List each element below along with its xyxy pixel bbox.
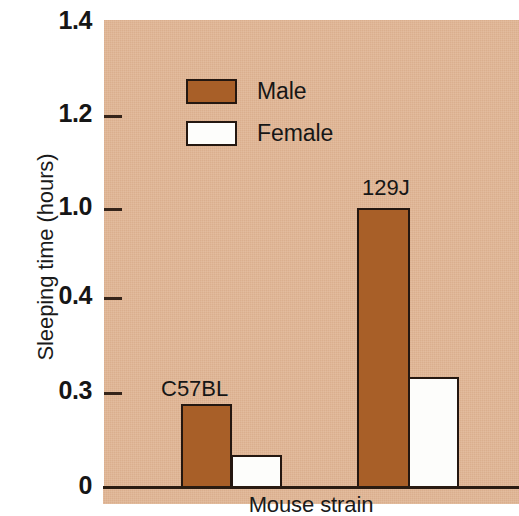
plot-area: Male Female C57BL 129J — [103, 20, 519, 504]
y-axis-title: Sleeping time (hours) — [33, 117, 59, 397]
legend-label-male: Male — [257, 78, 306, 105]
bar-c57bl-male — [181, 404, 232, 489]
y-tick-mark-1-2 — [103, 115, 122, 118]
x-axis-title: Mouse strain — [103, 492, 519, 516]
legend-swatch-female-icon — [186, 121, 237, 146]
bar-129j-male — [357, 208, 410, 489]
y-tick-label-0: 0 — [14, 473, 92, 498]
y-axis-line — [102, 20, 104, 489]
group-label-c57bl: C57BL — [161, 378, 228, 400]
legend-swatch-male-icon — [186, 79, 237, 104]
y-tick-mark-0-3 — [103, 392, 122, 395]
bar-c57bl-female — [231, 455, 282, 489]
y-tick-label-1-4: 1.4 — [14, 8, 92, 33]
y-tick-mark-0-4 — [103, 297, 122, 300]
x-axis-line — [103, 486, 519, 489]
legend-item-male: Male — [186, 78, 306, 105]
group-label-129j: 129J — [362, 177, 410, 199]
bar-129j-female — [408, 377, 459, 489]
sleeping-time-bar-chart: Male Female C57BL 129J 1.4 1.2 1.0 0.4 0… — [0, 0, 519, 516]
y-tick-mark-1-0 — [103, 208, 122, 211]
legend-item-female: Female — [186, 120, 333, 147]
legend-label-female: Female — [257, 120, 333, 147]
